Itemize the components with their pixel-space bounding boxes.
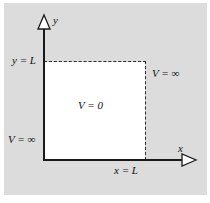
potential-well-region [44,62,145,160]
label-x-equals-L: x = L [114,165,138,176]
label-potential-right: V = ∞ [152,68,179,79]
x-axis-arrowhead-icon [181,153,197,167]
label-potential-inside: V = 0 [78,100,103,111]
y-axis-arrowhead-icon [37,14,51,30]
y-axis-label: y [53,15,58,26]
label-y-equals-L: y = L [12,55,36,66]
x-axis-label: x [178,143,183,154]
y-axis-line [43,28,45,160]
x-axis-line [43,159,185,161]
boundary-dashed-right [145,61,146,160]
label-potential-left: V = ∞ [8,134,35,145]
boundary-dashed-top [44,61,146,62]
figure-root: y x y = L x = L V = 0 V = ∞ V = ∞ [0,0,210,203]
